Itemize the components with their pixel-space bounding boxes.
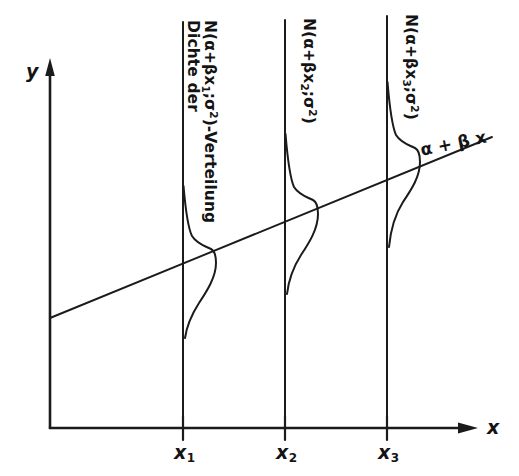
density-label-x3-sup: 2 xyxy=(409,105,421,112)
x-axis-label: x xyxy=(487,418,499,437)
y-axis-label: y xyxy=(26,62,38,81)
density-label-x2-sup: 2 xyxy=(307,109,319,116)
density-label-x2-sub: 2 xyxy=(299,83,311,90)
tick-label-x1-subscript: 1 xyxy=(187,451,195,465)
density-label-x1-line1: Dichte der xyxy=(185,20,201,112)
density-label-x2: N(α+βx2;σ2) xyxy=(299,18,318,124)
density-label-x3-sub: 3 xyxy=(401,79,413,86)
tick-label-x2: x2 xyxy=(276,443,297,464)
tick-label-x3-subscript: 3 xyxy=(391,451,399,465)
density-label-x2-pre: N(α+βx xyxy=(300,18,318,83)
density-label-x1-line2-sub: 1 xyxy=(200,85,212,92)
density-label-x3-pre: N(α+βx xyxy=(402,14,420,79)
density-label-x1-line2-pre: N(α+βx xyxy=(201,20,219,85)
y-axis-arrowhead xyxy=(45,58,55,76)
density-label-x1-line2-sup: 2 xyxy=(208,111,220,118)
density-label-x1-line2: N(α+βx1;σ2)-Verteilung xyxy=(200,20,219,223)
density-label-x3-mid: ;σ xyxy=(402,87,420,105)
tick-label-x2-subscript: 2 xyxy=(289,451,297,465)
density-label-x1-line2-mid: ;σ xyxy=(201,93,219,111)
tick-label-x3-base: x xyxy=(378,441,390,463)
regression-line xyxy=(50,137,492,318)
figure-canvas xyxy=(0,0,519,476)
x-axis-arrowhead xyxy=(458,423,478,434)
density-label-x3: N(α+βx3;σ2) xyxy=(401,14,420,120)
density-label-x2-post: ) xyxy=(300,117,318,124)
regression-distribution-figure: y x x1 x2 x3 Dichte der N(α+βx1;σ2)-Vert… xyxy=(0,0,519,476)
tick-label-x3: x3 xyxy=(378,443,399,464)
tick-label-x1: x1 xyxy=(174,443,195,464)
tick-label-x1-base: x xyxy=(174,441,186,463)
density-label-x3-post: ) xyxy=(402,113,420,120)
tick-label-x2-base: x xyxy=(276,441,288,463)
density-label-x2-mid: ;σ xyxy=(300,91,318,109)
density-label-x1-line1-text: Dichte der xyxy=(184,20,202,112)
density-label-x1-line2-post: )-Verteilung xyxy=(201,119,219,224)
